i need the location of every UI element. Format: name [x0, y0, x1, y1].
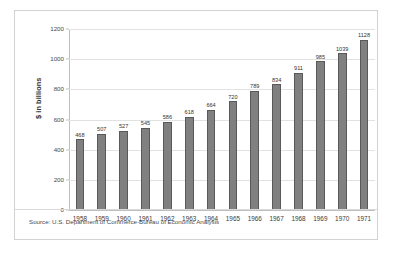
y-tick-mark-800	[66, 89, 69, 90]
bar-group-1963[interactable]: 6181963	[185, 117, 194, 210]
bar-1969[interactable]	[316, 61, 325, 210]
bar-group-1971[interactable]: 11281971	[360, 40, 369, 210]
y-tick-mark-600	[66, 119, 69, 120]
bar-group-1961[interactable]: 5451961	[141, 128, 150, 210]
bar-value-label-1963: 618	[185, 110, 194, 116]
x-tick-label-1966: 1966	[248, 216, 262, 222]
bar-1963[interactable]	[185, 117, 194, 210]
bar-value-label-1970: 1039	[336, 47, 348, 53]
y-tick-label-600: 600	[54, 116, 64, 122]
bar-1961[interactable]	[141, 128, 150, 210]
y-tick-label-1000: 1000	[50, 56, 64, 62]
bar-value-label-1965: 720	[228, 95, 237, 101]
bar-1968[interactable]	[294, 73, 303, 210]
bar-value-label-1961: 545	[141, 121, 150, 127]
y-tick-label-1200: 1200	[50, 26, 64, 32]
source-divider	[15, 209, 377, 210]
y-tick-mark-400	[66, 149, 69, 150]
x-tick-label-1969: 1969	[313, 216, 327, 222]
bar-1960[interactable]	[119, 131, 128, 210]
bar-1962[interactable]	[163, 122, 172, 210]
bar-group-1966[interactable]: 7891966	[250, 91, 259, 210]
bar-value-label-1971: 1128	[358, 33, 370, 39]
bar-group-1960[interactable]: 5271960	[119, 131, 128, 210]
bar-value-label-1964: 664	[206, 103, 215, 109]
gridline-600: 600	[69, 120, 375, 121]
bar-group-1962[interactable]: 5861962	[163, 122, 172, 210]
bar-1970[interactable]	[338, 53, 347, 210]
bar-group-1958[interactable]: 4681958	[76, 139, 85, 210]
bar-value-label-1959: 507	[97, 127, 106, 133]
x-tick-label-1965: 1965	[226, 216, 240, 222]
bar-group-1970[interactable]: 10391970	[338, 53, 347, 210]
bar-value-label-1962: 586	[163, 115, 172, 121]
y-tick-mark-1000	[66, 59, 69, 60]
bar-group-1965[interactable]: 7201965	[229, 101, 238, 210]
y-tick-label-400: 400	[54, 147, 64, 153]
bar-group-1964[interactable]: 6641964	[207, 110, 216, 210]
gridline-0: 0	[69, 210, 375, 211]
plot-area: 0200400600800100012004681958507195952719…	[69, 29, 375, 210]
bar-value-label-1958: 468	[75, 133, 84, 139]
bar-value-label-1966: 789	[250, 84, 259, 90]
bar-group-1968[interactable]: 9111968	[294, 73, 303, 210]
y-tick-label-200: 200	[54, 177, 64, 183]
gridline-400: 400	[69, 150, 375, 151]
bar-1958[interactable]	[76, 139, 85, 210]
gridline-200: 200	[69, 180, 375, 181]
gridline-1200: 1200	[69, 29, 375, 30]
bar-group-1959[interactable]: 5071959	[97, 134, 106, 210]
x-tick-label-1968: 1968	[291, 216, 305, 222]
bar-value-label-1960: 527	[119, 124, 128, 130]
bar-group-1967[interactable]: 8341967	[272, 84, 281, 210]
y-tick-label-0: 0	[61, 207, 64, 213]
bar-1964[interactable]	[207, 110, 216, 210]
y-axis-title: $ in billions	[34, 78, 43, 119]
bar-1971[interactable]	[360, 40, 369, 210]
bar-value-label-1969: 985	[316, 55, 325, 61]
bar-1967[interactable]	[272, 84, 281, 210]
bar-value-label-1968: 911	[294, 66, 303, 72]
bar-1959[interactable]	[97, 134, 106, 210]
y-tick-label-800: 800	[54, 86, 64, 92]
y-tick-mark-200	[66, 179, 69, 180]
bar-1965[interactable]	[229, 101, 238, 210]
x-tick-label-1970: 1970	[335, 216, 349, 222]
chart-page: $ in billions 02004006008001000120046819…	[0, 0, 397, 256]
chart-panel: $ in billions 02004006008001000120046819…	[14, 10, 378, 240]
source-note: Source: U.S. Department of Commerce-Bure…	[29, 219, 219, 225]
gridline-1000: 1000	[69, 59, 375, 60]
y-tick-mark-1200	[66, 29, 69, 30]
bar-value-label-1967: 834	[272, 78, 281, 84]
x-tick-label-1967: 1967	[270, 216, 284, 222]
gridline-800: 800	[69, 89, 375, 90]
bar-group-1969[interactable]: 9851969	[316, 61, 325, 210]
x-tick-label-1971: 1971	[357, 216, 371, 222]
bar-1966[interactable]	[250, 91, 259, 210]
